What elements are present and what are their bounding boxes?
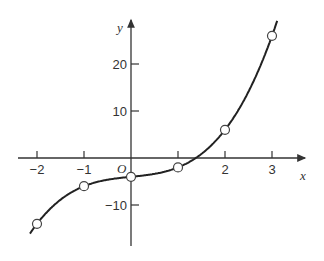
origin-label: O	[117, 161, 127, 176]
axes: −2−123−101020	[18, 20, 305, 246]
x-axis-label: x	[299, 168, 306, 183]
data-points	[33, 31, 277, 228]
y-tick-label: 10	[113, 104, 127, 119]
x-tick-label: −2	[30, 162, 45, 177]
x-tick-label: 2	[221, 162, 228, 177]
data-point	[80, 182, 89, 191]
data-point	[174, 163, 183, 172]
data-point	[268, 31, 277, 40]
data-point	[221, 125, 230, 134]
data-point	[33, 219, 42, 228]
y-axis-label: y	[115, 20, 123, 35]
x-tick-label: −1	[77, 162, 92, 177]
x-tick-label: 3	[268, 162, 275, 177]
cubic-function-chart: −2−123−101020 x y O	[0, 0, 324, 261]
function-curve	[30, 21, 277, 234]
y-tick-label: 20	[113, 57, 127, 72]
data-point	[127, 172, 136, 181]
y-tick-label: −10	[105, 198, 127, 213]
